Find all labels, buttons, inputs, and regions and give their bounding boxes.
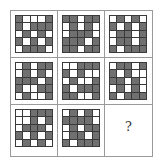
pattern-grid	[62, 109, 100, 147]
dark-square	[140, 46, 146, 52]
dark-square	[31, 125, 37, 131]
dark-square	[70, 93, 76, 99]
dark-square	[31, 23, 37, 29]
dark-square	[46, 63, 52, 69]
dark-square	[38, 85, 44, 91]
white-square	[93, 117, 99, 123]
dark-square	[125, 46, 131, 52]
dark-square	[78, 38, 84, 44]
dark-square	[63, 46, 69, 52]
dark-square	[93, 16, 99, 22]
white-square	[110, 31, 116, 37]
white-square	[132, 38, 138, 44]
dark-square	[93, 78, 99, 84]
white-square	[46, 46, 52, 52]
white-square	[63, 63, 69, 69]
dark-square	[46, 117, 52, 123]
dark-square	[117, 16, 123, 22]
white-square	[31, 140, 37, 146]
white-square	[31, 85, 37, 91]
dark-square	[23, 46, 29, 52]
white-square	[93, 110, 99, 116]
dark-square	[46, 38, 52, 44]
white-square	[125, 85, 131, 91]
dark-square	[93, 38, 99, 44]
white-square	[70, 140, 76, 146]
dark-square	[16, 132, 22, 138]
dark-square	[78, 85, 84, 91]
dark-square	[46, 93, 52, 99]
white-square	[85, 38, 91, 44]
white-square	[85, 70, 91, 76]
dark-square	[85, 140, 91, 146]
dark-square	[85, 85, 91, 91]
dark-square	[132, 46, 138, 52]
white-square	[85, 93, 91, 99]
dark-square	[16, 85, 22, 91]
white-square	[31, 16, 37, 22]
dark-square	[78, 31, 84, 37]
dark-square	[93, 125, 99, 131]
dark-square	[93, 93, 99, 99]
dark-square	[31, 117, 37, 123]
dark-square	[70, 16, 76, 22]
white-square	[70, 85, 76, 91]
dark-square	[23, 140, 29, 146]
dark-square	[132, 16, 138, 22]
white-square	[16, 125, 22, 131]
dark-square	[70, 31, 76, 37]
puzzle-matrix: ?	[10, 10, 153, 157]
white-square	[110, 63, 116, 69]
dark-square	[31, 46, 37, 52]
white-square	[93, 23, 99, 29]
pattern-grid	[15, 15, 53, 53]
dark-square	[125, 70, 131, 76]
white-square	[38, 78, 44, 84]
dark-square	[140, 23, 146, 29]
white-square	[23, 110, 29, 116]
white-square	[23, 85, 29, 91]
white-square	[63, 132, 69, 138]
white-square	[78, 125, 84, 131]
dark-square	[38, 110, 44, 116]
white-square	[23, 16, 29, 22]
dark-square	[23, 125, 29, 131]
dark-square	[78, 117, 84, 123]
white-square	[31, 63, 37, 69]
dark-square	[117, 31, 123, 37]
dark-square	[46, 16, 52, 22]
white-square	[125, 16, 131, 22]
white-square	[31, 93, 37, 99]
dark-square	[23, 78, 29, 84]
white-square	[16, 140, 22, 146]
puzzle-panel-r2c2	[58, 58, 105, 105]
white-square	[16, 117, 22, 123]
white-square	[140, 70, 146, 76]
white-square	[63, 78, 69, 84]
dark-square	[117, 85, 123, 91]
dark-square	[85, 46, 91, 52]
dark-square	[125, 63, 131, 69]
dark-square	[70, 46, 76, 52]
white-square	[85, 78, 91, 84]
dark-square	[78, 132, 84, 138]
dark-square	[140, 38, 146, 44]
pattern-grid	[15, 109, 53, 147]
dark-square	[16, 78, 22, 84]
white-square	[132, 63, 138, 69]
dark-square	[78, 63, 84, 69]
dark-square	[85, 125, 91, 131]
dark-square	[46, 85, 52, 91]
pattern-grid	[15, 62, 53, 100]
white-square	[38, 93, 44, 99]
dark-square	[38, 23, 44, 29]
dark-square	[85, 31, 91, 37]
pattern-grid	[62, 62, 100, 100]
dark-square	[23, 93, 29, 99]
white-square	[31, 31, 37, 37]
white-square	[63, 110, 69, 116]
white-square	[140, 16, 146, 22]
dark-square	[70, 23, 76, 29]
dark-square	[117, 63, 123, 69]
white-square	[85, 132, 91, 138]
